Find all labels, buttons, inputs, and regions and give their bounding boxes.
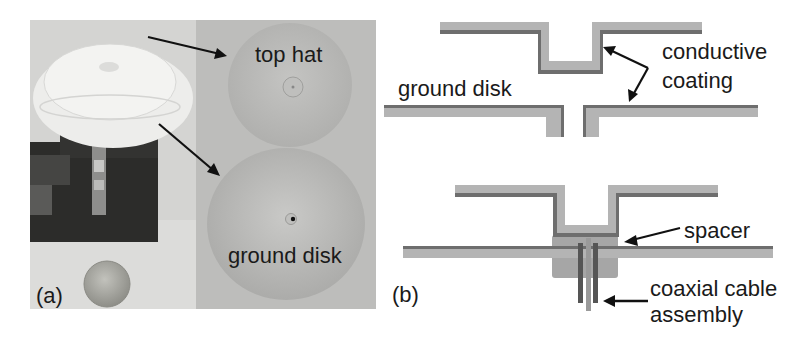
coaxial-cable xyxy=(578,238,598,311)
figure: top hat ground disk (a) xyxy=(0,0,808,341)
ground-disk-diagram-label: ground disk xyxy=(398,78,512,100)
panel-b-diagram: ground disk conductive coating spacer co… xyxy=(384,0,808,341)
top-hat-label: top hat xyxy=(255,44,322,66)
coating-label: coating xyxy=(662,70,733,92)
spacer-label: spacer xyxy=(684,220,750,242)
coating-arrows xyxy=(603,46,648,102)
ground-disk-photo-label: ground disk xyxy=(228,245,342,267)
assembly-label: assembly xyxy=(650,304,743,326)
coaxial-cable-label: coaxial cable xyxy=(650,278,777,300)
ground-disk-cross-section xyxy=(384,105,758,137)
panel-a-label: (a) xyxy=(36,285,63,307)
panel-b-label: (b) xyxy=(392,284,419,306)
conductive-label: conductive xyxy=(662,41,767,63)
panel-a-photo: top hat ground disk (a) xyxy=(30,20,376,309)
